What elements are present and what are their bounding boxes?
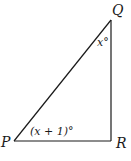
triangle-diagram: Q P R x° (x + 1)° (0, 0, 131, 161)
angle-label-p: (x + 1)° (30, 125, 74, 138)
vertex-label-r: R (115, 135, 127, 151)
angle-label-q: x° (97, 36, 109, 49)
vertex-label-q: Q (112, 2, 124, 18)
vertex-label-p: P (0, 134, 11, 150)
